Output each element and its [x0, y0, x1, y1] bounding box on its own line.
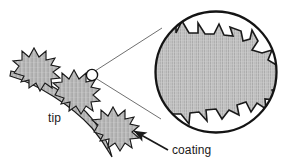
leader-line-upper	[95, 28, 162, 71]
coating-blob-upper-left	[13, 48, 60, 91]
tip-label: tip	[48, 111, 61, 125]
leader-line-lower	[97, 79, 161, 119]
coating-arrow	[134, 131, 168, 150]
coating-blobs-group	[13, 48, 139, 151]
magnified-fractal-content	[150, 11, 285, 135]
fractal-tip-diagram: tip coating	[0, 0, 285, 166]
coating-label: coating	[172, 143, 211, 157]
magnify-source-marker-circle	[86, 69, 97, 80]
figure-canvas: tip coating	[0, 0, 285, 166]
coating-blob-middle	[53, 70, 100, 114]
coating-blob-lower-right	[92, 107, 139, 151]
